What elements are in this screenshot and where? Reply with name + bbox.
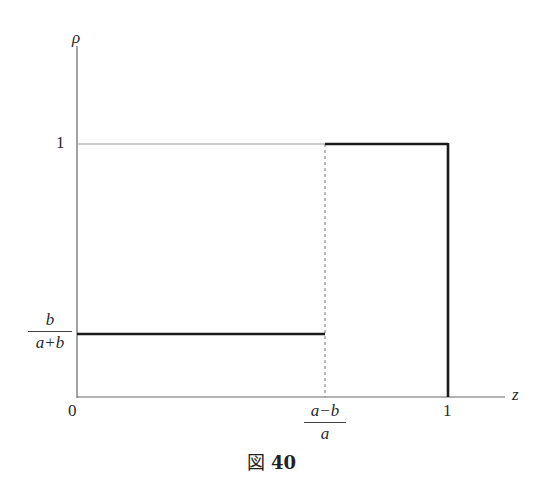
caption-number: 40 bbox=[271, 452, 296, 473]
y-axis-label: ρ bbox=[72, 28, 80, 48]
figure-caption: 図40 bbox=[0, 448, 543, 474]
origin-label: 0 bbox=[68, 401, 77, 421]
fraction-bar bbox=[304, 422, 346, 423]
fraction-bar bbox=[28, 331, 72, 332]
y-frac-numerator: b bbox=[46, 311, 55, 329]
y-frac-denominator: a+b bbox=[36, 334, 64, 352]
x-tick-one: 1 bbox=[443, 401, 452, 421]
y-tick-one: 1 bbox=[56, 133, 65, 153]
x-axis-label: z bbox=[512, 385, 519, 405]
y-tick-fraction: b a+b bbox=[28, 311, 72, 352]
x-tick-fraction: a−b a bbox=[304, 402, 346, 443]
x-frac-numerator: a−b bbox=[311, 402, 339, 420]
plot-canvas bbox=[0, 0, 543, 488]
x-frac-denominator: a bbox=[321, 425, 330, 443]
caption-prefix: 図 bbox=[247, 452, 265, 473]
